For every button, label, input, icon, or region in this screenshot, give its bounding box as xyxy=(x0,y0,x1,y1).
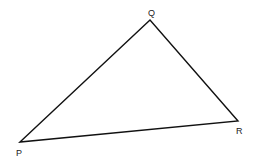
vertex-label-q: Q xyxy=(148,8,155,18)
triangle-svg: Q R P xyxy=(0,0,254,164)
triangle-pqr xyxy=(20,20,238,142)
vertex-label-p: P xyxy=(16,148,22,158)
triangle-diagram: Q R P xyxy=(0,0,254,164)
vertex-label-r: R xyxy=(236,126,243,136)
